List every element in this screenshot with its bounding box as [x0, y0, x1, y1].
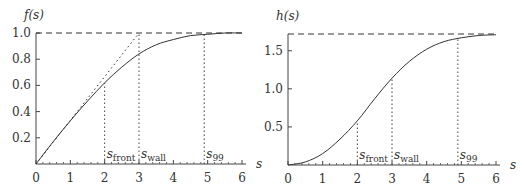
y-tick-label: 0.2	[12, 131, 31, 145]
f-chart: 01234560.20.40.60.81.0f(s)ssfrontswalls9…	[12, 8, 262, 185]
x-tick-label: 4	[170, 171, 178, 185]
marker-label-front: sfront	[107, 147, 136, 163]
y-tick-label: 0.8	[12, 52, 31, 66]
x-tick-label: 0	[32, 171, 40, 185]
marker-label-99: s99	[206, 147, 224, 163]
x-tick-label: 1	[319, 172, 327, 186]
y-tick-label: 1.0	[264, 82, 283, 96]
y-tick-label: 0.4	[12, 105, 31, 119]
y-tick-label: 0.6	[12, 78, 31, 92]
marker-label-wall: swall	[141, 147, 166, 163]
x-tick-label: 5	[204, 171, 212, 185]
y-tick-label: 1.5	[264, 44, 283, 58]
x-tick-label: 4	[423, 172, 431, 186]
figure: 01234560.20.40.60.81.0f(s)ssfrontswalls9…	[0, 0, 526, 191]
x-tick-label: 6	[238, 171, 246, 185]
x-tick-label: 2	[101, 171, 109, 185]
x-tick-label: 3	[388, 172, 396, 186]
marker-label-front: sfront	[359, 148, 388, 164]
x-tick-label: 2	[354, 172, 362, 186]
y-tick-label: 0.5	[264, 120, 283, 134]
x-tick-label: 5	[458, 172, 466, 186]
marker-label-99: s99	[460, 148, 478, 164]
marker-label-wall: swall	[394, 148, 419, 164]
x-axis-label: s	[510, 158, 516, 172]
series-fs	[36, 33, 242, 164]
x-tick-label: 1	[67, 171, 75, 185]
x-tick-label: 6	[492, 172, 500, 186]
y-tick-label: 1.0	[12, 26, 31, 40]
x-tick-label: 0	[284, 172, 292, 186]
y-axis-label: h(s)	[276, 9, 300, 23]
x-tick-label: 3	[135, 171, 143, 185]
y-axis-label: f(s)	[23, 8, 44, 22]
h-chart: 01234560.51.01.5h(s)ssfrontswalls99	[264, 9, 516, 186]
x-axis-label: s	[256, 157, 262, 171]
